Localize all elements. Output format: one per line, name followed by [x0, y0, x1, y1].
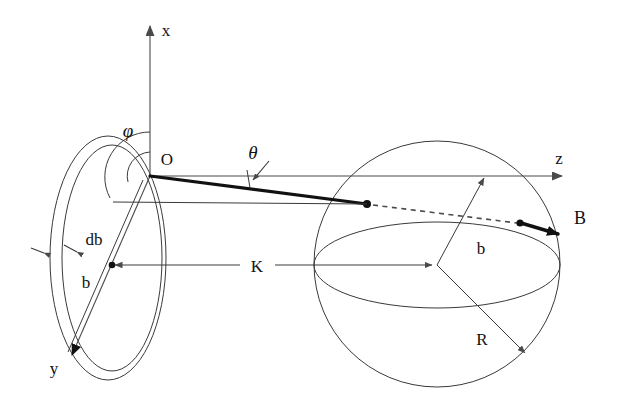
ring-radius-label: b [82, 273, 91, 292]
ring-center-dot [109, 262, 116, 269]
ring-radius-b-line [68, 180, 143, 352]
db-leader-group [31, 245, 77, 253]
theta-angle-label: θ [248, 142, 257, 163]
separation-label: K [251, 257, 264, 276]
theta-leader-line [253, 161, 269, 180]
z-axis-label: z [555, 149, 563, 168]
current-ring [50, 136, 166, 380]
sphere-impact-label: b [477, 239, 486, 258]
sphere-radius-label: R [476, 330, 488, 349]
ring-outer-ellipse [50, 136, 166, 380]
figure-canvas: x y z O φ θ db b K b R B [0, 0, 617, 415]
y-axis-label: y [50, 359, 59, 378]
theta-angle-tick [247, 170, 250, 188]
physics-diagram: x y z O φ θ db b K b R B [0, 0, 617, 415]
sphere-radius-group [437, 178, 525, 353]
separation-k-group [109, 262, 432, 269]
b-field-vector-arrow [521, 223, 558, 234]
ray-projection-line [113, 202, 367, 204]
origin-label: O [161, 150, 173, 169]
ray-dashed-continuation [373, 205, 517, 223]
ring-thickness-label: db [86, 230, 103, 249]
incident-ray-group [113, 176, 558, 234]
ring-inner-ellipse [62, 145, 162, 371]
phi-angle-label: φ [123, 120, 134, 141]
coordinate-axes [72, 26, 562, 355]
db-leader-outer [64, 245, 77, 252]
theta-angle-group [247, 161, 269, 188]
x-axis-label: x [162, 21, 171, 40]
incident-ray-thick [150, 176, 367, 204]
db-leader-gap [31, 248, 44, 253]
phi-angle-arc-outer [105, 132, 150, 198]
b-field-label: B [574, 208, 586, 228]
